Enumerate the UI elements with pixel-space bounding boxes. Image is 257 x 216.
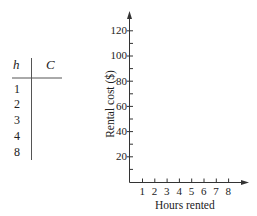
y-tick-label: 80 (116, 76, 127, 87)
y-tick-label: 20 (116, 151, 127, 162)
x-tick-label: 8 (226, 186, 232, 197)
x-tick-label: 7 (213, 186, 219, 197)
chart-axes (0, 0, 257, 216)
y-axis-label: Rental cost ($) (104, 70, 116, 138)
y-axis-arrow-icon (127, 11, 132, 19)
y-tick-label: 60 (116, 101, 127, 112)
x-tick-label: 2 (152, 186, 158, 197)
x-ticks (143, 179, 229, 183)
y-tick-label: 100 (111, 50, 128, 61)
y-tick-label: 120 (111, 25, 128, 36)
x-tick-label: 4 (176, 186, 182, 197)
x-axis-label: Hours rented (155, 199, 215, 211)
x-axis-arrow-icon (241, 180, 249, 185)
y-tick-label: 40 (116, 126, 127, 137)
x-tick-label: 1 (140, 186, 146, 197)
x-tick-label: 5 (189, 186, 195, 197)
x-tick-label: 6 (201, 186, 207, 197)
x-tick-label: 3 (164, 186, 170, 197)
